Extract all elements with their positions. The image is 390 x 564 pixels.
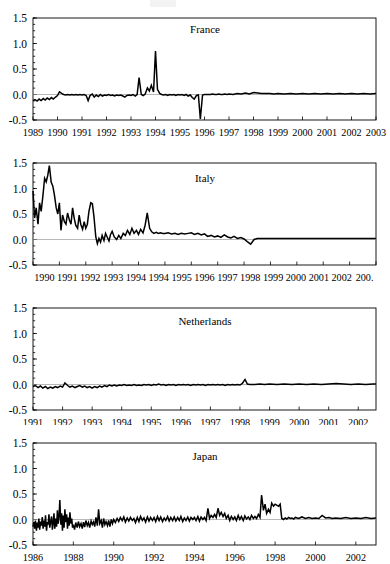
x-axis-label: 1994 — [145, 127, 165, 138]
y-axis-label: -0.5 — [9, 404, 27, 416]
x-axis-label: 1994 — [149, 272, 169, 283]
y-axis-label: 1.5 — [13, 12, 28, 24]
y-axis-label: -0.5 — [9, 114, 27, 126]
x-axis-label: 2002 — [341, 127, 361, 138]
multi-panel-time-series-figure: 1.51.00.50.0-0.5198919901991199219931994… — [0, 0, 390, 564]
panel-title: Japan — [192, 450, 218, 462]
x-axis-label: 1986 — [23, 552, 43, 563]
y-axis-label: 0.5 — [13, 353, 28, 365]
y-axis-label: 1.5 — [13, 157, 28, 169]
x-axis-label: 1993 — [82, 417, 102, 425]
x-axis-label: 1997 — [217, 272, 237, 283]
x-axis-label: 1992 — [144, 552, 164, 563]
x-axis-label: 1995 — [141, 417, 161, 425]
panel-france: 1.51.00.50.0-0.5198919901991199219931994… — [0, 0, 390, 145]
plot-area-france: 1.51.00.50.0-0.5198919901991199219931994… — [0, 0, 390, 145]
y-axis-label: 1.0 — [13, 463, 28, 475]
x-axis-label: 1993 — [121, 127, 141, 138]
x-axis-label: 2002 — [346, 552, 366, 563]
panel-italy: 1.51.00.50.0-0.5199019911992199319941994… — [0, 145, 390, 290]
y-axis-label: -0.5 — [9, 539, 27, 551]
x-axis-label: 1994 — [112, 417, 132, 425]
x-axis-label: 1995 — [170, 127, 190, 138]
panel-title: Italy — [195, 172, 216, 184]
series-line — [33, 495, 376, 531]
y-axis-label: -0.5 — [9, 259, 27, 271]
y-axis-label: 0.5 — [13, 488, 28, 500]
y-axis-label: 1.0 — [13, 328, 28, 340]
x-axis-label: 1996 — [171, 417, 191, 425]
x-axis-label: 2000 — [286, 272, 306, 283]
x-axis-label: 2000 — [289, 417, 309, 425]
x-axis-label: 1997 — [200, 417, 220, 425]
x-axis-label: 1993 — [103, 272, 123, 283]
plot-area-japan: 1.51.00.50.0-0.5198619881990199219941996… — [0, 425, 390, 564]
y-axis-label: 0.5 — [13, 208, 28, 220]
x-axis-label: 1988 — [63, 552, 83, 563]
x-axis-label: 2003 — [366, 127, 386, 138]
x-axis-label: 2002 — [332, 272, 352, 283]
x-axis-label: 1991 — [57, 272, 77, 283]
plot-area-netherlands: 1.51.00.50.0-0.5199119921993199419951996… — [0, 290, 390, 425]
panel-japan: 1.51.00.50.0-0.5198619881990199219941996… — [0, 425, 390, 564]
x-axis-label: 1991 — [23, 417, 43, 425]
x-axis-label: 1999 — [268, 127, 288, 138]
y-axis-label: 0.0 — [13, 234, 28, 246]
x-axis-label: 1998 — [243, 127, 263, 138]
x-axis-label: 1989 — [23, 127, 43, 138]
x-axis-label: 1999 — [259, 417, 279, 425]
series-line — [33, 379, 376, 388]
y-axis-label: 1.5 — [13, 437, 28, 449]
x-axis-label: 1991 — [72, 127, 92, 138]
x-axis-label: 2001 — [309, 272, 329, 283]
y-axis-label: 0.0 — [13, 379, 28, 391]
panel-title: Netherlands — [178, 315, 231, 327]
x-axis-label: 1990 — [104, 552, 124, 563]
x-axis-label: 1992 — [96, 127, 116, 138]
y-axis-label: 0.5 — [13, 63, 28, 75]
x-axis-label: 200. — [356, 272, 374, 283]
x-axis-label: 1999 — [263, 272, 283, 283]
x-axis-label: 1996 — [194, 272, 214, 283]
x-axis-label: 2002 — [348, 417, 368, 425]
x-axis-label: 2000 — [305, 552, 325, 563]
x-axis-label: 2001 — [319, 417, 339, 425]
x-axis-label: 1992 — [52, 417, 72, 425]
x-axis-label: 1994 — [184, 552, 204, 563]
x-axis-label: 1990 — [34, 272, 54, 283]
y-axis-label: 0.0 — [13, 514, 28, 526]
x-axis-label: 1997 — [219, 127, 239, 138]
y-axis-label: 0.0 — [13, 89, 28, 101]
x-axis-label: 1994 — [126, 272, 146, 283]
x-axis-label: 1990 — [47, 127, 67, 138]
y-axis-label: 1.0 — [13, 38, 28, 50]
panel-netherlands: 1.51.00.50.0-0.5199119921993199419951996… — [0, 290, 390, 425]
panel-title: France — [190, 23, 220, 35]
x-axis-label: 1998 — [240, 272, 260, 283]
series-line — [33, 51, 376, 119]
x-axis-label: 1996 — [194, 127, 214, 138]
x-axis-label: 1998 — [265, 552, 285, 563]
x-axis-label: 2001 — [317, 127, 337, 138]
x-axis-label: 1998 — [230, 417, 250, 425]
x-axis-label: 1995 — [171, 272, 191, 283]
x-axis-label: 2000 — [292, 127, 312, 138]
x-axis-label: 1996 — [225, 552, 245, 563]
x-axis-label: 1992 — [80, 272, 100, 283]
plot-area-italy: 1.51.00.50.0-0.5199019911992199319941994… — [0, 145, 390, 290]
y-axis-label: 1.0 — [13, 183, 28, 195]
y-axis-label: 1.5 — [13, 302, 28, 314]
